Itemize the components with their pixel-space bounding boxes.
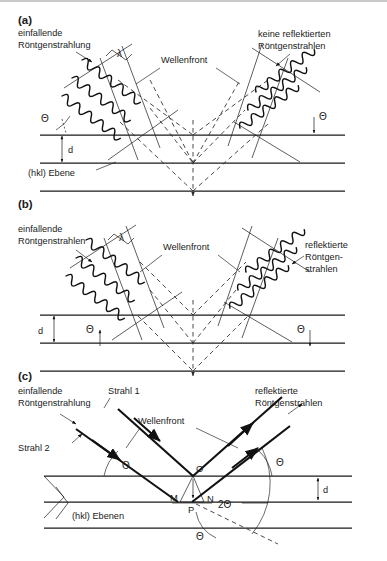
panel-a-outgoing-leader (276, 54, 290, 66)
panel-b-outgoing-line1: reflektierte (305, 240, 348, 250)
panel-c-planes-brace (44, 476, 64, 518)
panel-c-incoming-line2: Röntgenstrahlung (18, 398, 91, 408)
panel-c-incoming-leader (60, 414, 76, 424)
panel-c-wavefront-leader-right (196, 428, 238, 448)
panel-a-theta-right-label: Θ (319, 111, 327, 122)
panel-c: Θ Θ 2Θ Θ O M N P d (hkl) Ebenen (c) einf… (18, 370, 352, 544)
panel-a-incident-wave-1 (70, 75, 133, 124)
panel-b-incoming-line2: Röntgenstrahlen (18, 236, 85, 246)
panel-c-point-p: P (188, 504, 194, 515)
panel-c-d-label: d (323, 485, 328, 495)
panel-c-theta-right-arc (259, 451, 272, 476)
panel-b-outgoing-line2: Röntgen- (305, 252, 343, 262)
panel-a-incident-path-1 (118, 80, 193, 135)
panel-a-incoming-line2: Röntgenstrahlung (18, 40, 91, 50)
panel-b-outgoing-line3: strahlen (305, 264, 338, 274)
panel-b-right-front-1 (218, 226, 252, 326)
panel-c-2theta-label: 2Θ (218, 499, 232, 510)
panel-c-ray1-label: Strahl 1 (108, 386, 140, 396)
panel-b-incoming-leader (76, 250, 92, 262)
panel-b-incoming-line1: einfallende (18, 224, 62, 234)
panel-b-theta-left-label: Θ (86, 324, 94, 335)
panel-a-wavelength-label: λ (117, 48, 122, 59)
panel-a: λ Θ Θ d (a) einfallende Röntgenstrahlung… (18, 14, 345, 196)
panel-b-incident-wave-1 (74, 255, 137, 304)
panel-c-theta-left-label: Θ (122, 460, 130, 471)
panel-a-incoming-line1: einfallende (18, 28, 62, 38)
panel-b-d-label: d (38, 326, 43, 336)
panel-a-incident-path-3 (120, 122, 193, 191)
panel-c-ray2-incident-arrow (92, 440, 120, 460)
panel-c-incoming-line1: einfallende (18, 386, 62, 396)
panel-c-ray2-leader (72, 434, 82, 443)
panel-a-incident-path-2 (150, 80, 193, 163)
panel-b-wavefront-label: Wellenfront (163, 242, 210, 252)
panel-a-theta-left-label: Θ (41, 113, 49, 124)
panel-c-point-n: N (207, 493, 214, 504)
panel-a-planes-label: (hkl) Ebene (28, 168, 75, 178)
panel-a-d-label: d (68, 145, 73, 155)
panel-a-theta-left-tick (62, 119, 66, 133)
panel-a-id: (a) (18, 14, 32, 26)
panel-a-right-front-1 (228, 44, 262, 146)
panel-b-wavefront-leader-left (140, 255, 162, 272)
panel-c-ray1-leader (104, 398, 110, 408)
panel-a-outgoing-line1: keine reflektierten (258, 29, 331, 39)
panel-a-incident-wave-2 (80, 57, 143, 106)
panel-a-incoming-leader (76, 52, 92, 62)
panel-b-incident-wave-2 (84, 237, 147, 286)
panel-a-right-envelope-bottom (234, 122, 300, 162)
panel-c-planes-label: (hkl) Ebenen (72, 511, 124, 521)
panel-a-reflected-path-3 (193, 124, 268, 191)
panel-a-wavefront-label: Wellenfront (161, 55, 208, 65)
panel-b: λ Θ Θ d (b) einfallende Röntgenstrahlen … (18, 198, 348, 376)
panel-c-id: (c) (18, 370, 32, 382)
panel-b-right-envelope-bottom (224, 302, 292, 342)
panel-c-planes-brace-2 (56, 487, 68, 519)
panel-a-outgoing-line2: Röntgenstrahlen (258, 41, 325, 51)
panel-c-ray2-label: Strahl 2 (18, 443, 50, 453)
panel-c-2theta-arc (252, 448, 270, 534)
panel-c-ray2-reflected-arrow (232, 448, 258, 468)
panel-b-left-envelope-top (70, 225, 136, 268)
panel-a-wavefront-leader-right (216, 68, 240, 84)
panel-c-theta-bottom-label: Θ (196, 531, 204, 542)
panel-c-theta-right-label: Θ (276, 457, 284, 468)
panel-a-reflected-path-2 (193, 80, 240, 163)
panel-b-wavefront-leader-right (218, 255, 240, 272)
panel-b-incident-path-1 (140, 262, 193, 315)
bragg-diffraction-figure: λ Θ Θ d (a) einfallende Röntgenstrahlung… (0, 0, 387, 561)
panel-c-point-m: M (170, 492, 178, 503)
panel-c-wavefront-label: Wellenfront (138, 416, 185, 426)
panel-c-outgoing-line2: Röntgenstrahlen (255, 398, 322, 408)
panel-b-outgoing-leader (292, 256, 304, 264)
panel-b-id: (b) (18, 198, 33, 210)
panel-c-ray1-reflected-arrow (228, 423, 253, 446)
diagram-canvas: λ Θ Θ d (a) einfallende Röntgenstrahlung… (0, 0, 387, 561)
panel-a-wavefront-leader-left (136, 68, 160, 84)
panel-c-wavefront-leader-left (126, 428, 140, 448)
panel-c-point-o: O (196, 463, 203, 474)
panel-b-wavelength-label: λ (119, 232, 124, 243)
panel-c-outgoing-line1: reflektierte (255, 386, 298, 396)
panel-b-theta-right-label: Θ (297, 324, 305, 335)
panel-c-triangle-omp (180, 476, 204, 502)
